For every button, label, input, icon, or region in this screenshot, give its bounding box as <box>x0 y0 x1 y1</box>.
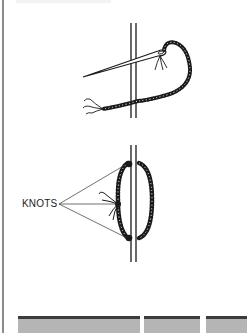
frayed-thread-end-icon <box>99 192 118 220</box>
knots-label: KNOTS <box>22 198 57 209</box>
bottom-bar-segment <box>144 316 200 333</box>
bottom-bar-segment <box>18 316 140 333</box>
frayed-thread-end-icon <box>155 56 167 70</box>
diagram-canvas <box>0 0 247 333</box>
bottom-bar-segment <box>206 316 247 333</box>
needle-icon <box>83 50 166 77</box>
beaded-thread-icon <box>103 42 190 109</box>
frayed-thread-end-icon <box>83 99 103 114</box>
bottom-figure <box>59 145 152 262</box>
thread-loop-icon <box>118 163 152 238</box>
pointer-lines <box>59 165 125 237</box>
top-figure <box>83 23 190 118</box>
